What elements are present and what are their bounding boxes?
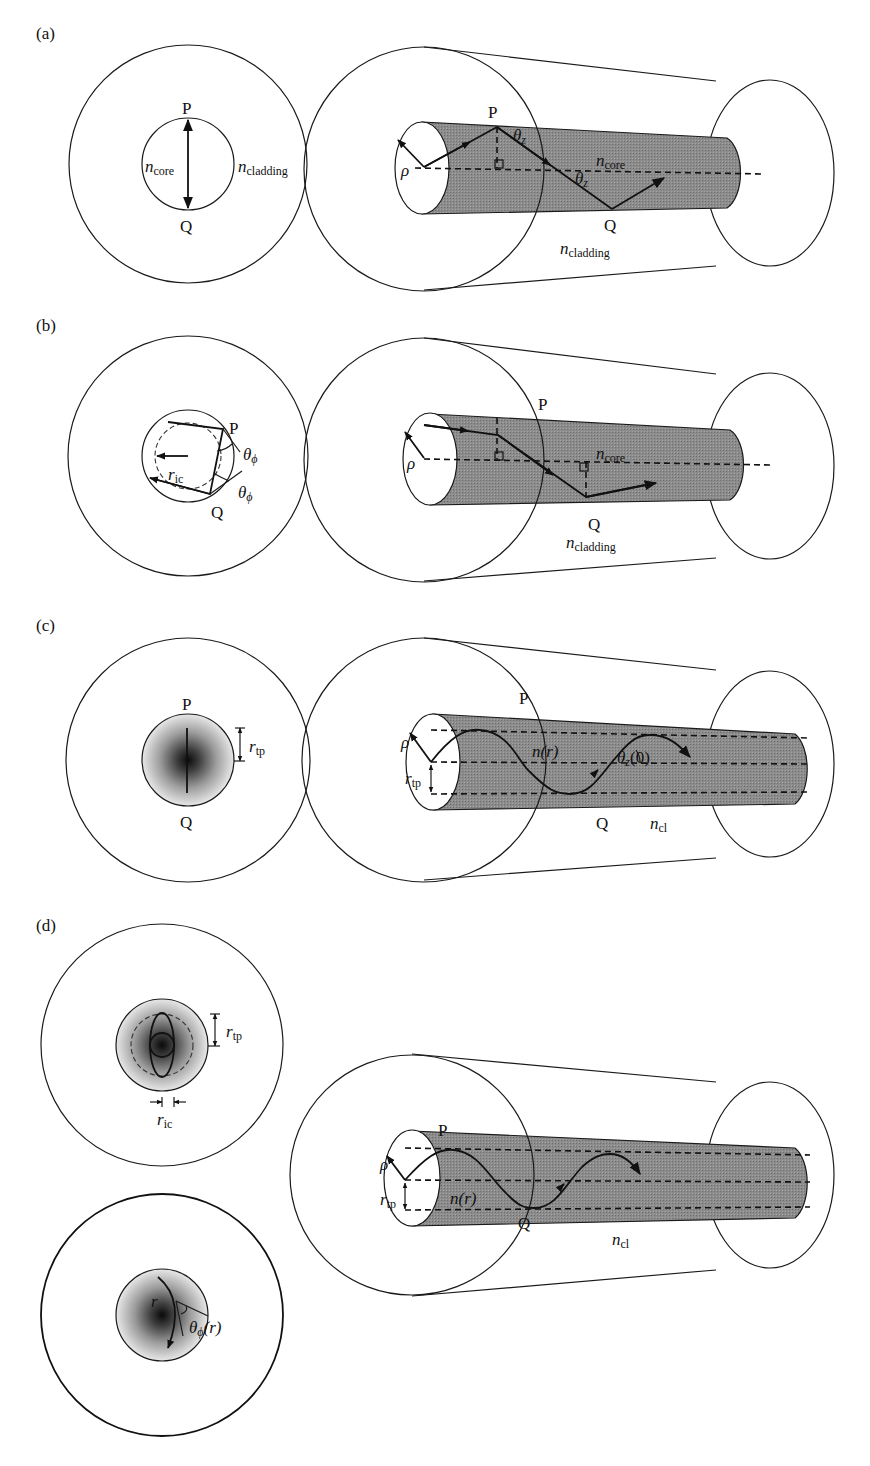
rho-label: ρ	[406, 454, 415, 473]
panel-a: (a) P Q ncore ncladding ρ P	[36, 24, 834, 291]
point-q-label: Q	[180, 813, 192, 832]
point-q-label: Q	[518, 1214, 530, 1233]
angle-arc	[215, 474, 229, 481]
cladding-bottom-edge	[424, 858, 716, 880]
point-q-label: Q	[596, 814, 608, 833]
graded-core	[142, 714, 234, 806]
fiber-ray-diagram: (a) P Q ncore ncladding ρ P	[0, 0, 870, 1466]
point-p-label: P	[438, 1121, 447, 1140]
point-p-label: P	[488, 103, 497, 122]
cladding-top-edge	[424, 338, 716, 374]
cladding-index-label: ncladding	[560, 239, 610, 260]
point-p-label: P	[182, 99, 191, 118]
panel-label-c: (c)	[36, 616, 55, 635]
cross-section-b: P Q ric θϕ θϕ	[68, 336, 308, 576]
core-cylinder	[422, 122, 741, 214]
refractive-profile-label: n(r)	[532, 742, 559, 761]
cladding-top-edge	[424, 47, 716, 81]
core-end-face	[384, 1130, 440, 1226]
core-index-label: ncore	[145, 157, 174, 178]
cladding-bottom-edge	[424, 558, 716, 581]
panel-b: (b) P Q ric θϕ θϕ ρ	[36, 316, 834, 582]
point-p-label: P	[182, 695, 191, 714]
theta-phi-label: θϕ	[238, 483, 253, 504]
cladding-index-label: ncladding	[238, 157, 288, 178]
panel-label-b: (b)	[36, 316, 56, 335]
cladding-bottom-edge	[412, 1270, 716, 1296]
cladding-index-label: ncl	[612, 1230, 630, 1251]
core-cylinder	[412, 1131, 807, 1226]
point-p-label: P	[229, 419, 238, 438]
panel-label-a: (a)	[36, 24, 55, 43]
fiber-3d-d: P Q ρ rtp n(r) ncl	[290, 1054, 834, 1296]
panel-d: (d) rtp ric r θϕ(r)	[36, 916, 834, 1436]
rho-label: ρ	[400, 161, 409, 180]
fiber-3d-c: P Q ρ rtp n(r) θz(0) ncl	[302, 638, 834, 882]
ric-label: ric	[157, 1110, 172, 1131]
theta-z0-label: θz(0)	[617, 748, 650, 769]
point-q-label: Q	[604, 216, 616, 235]
theta-phi-label: θϕ	[243, 445, 258, 466]
skew-ray-path	[150, 422, 223, 494]
point-p-label: P	[538, 395, 547, 414]
cladding-top-edge	[424, 638, 716, 670]
cross-section-d-top: rtp ric	[41, 924, 283, 1166]
graded-core	[116, 1269, 208, 1361]
cladding-index-label: ncl	[650, 814, 668, 835]
rtp-label: rtp	[226, 1022, 242, 1043]
cladding-index-label: ncladding	[566, 533, 616, 554]
fiber-3d-a: ρ P Q θz θz ncore ncladding	[304, 47, 834, 291]
point-q-label: Q	[588, 515, 600, 534]
ric-label: ric	[168, 465, 183, 486]
cladding-top-edge	[412, 1054, 716, 1082]
cross-section-d-bottom: r θϕ(r)	[41, 1194, 283, 1436]
rho-label: ρ	[400, 733, 409, 752]
panel-label-d: (d)	[36, 916, 56, 935]
rho-label: ρ	[379, 1155, 388, 1174]
cladding-bottom-edge	[424, 266, 716, 290]
point-q-label: Q	[180, 217, 192, 236]
rtp-label: rtp	[249, 737, 265, 758]
cross-section-a: P Q ncore ncladding	[69, 45, 307, 283]
theta-phi-r-label: θϕ(r)	[189, 1318, 222, 1339]
panel-c: (c) P Q rtp P	[36, 616, 834, 882]
cross-section-c: P Q rtp	[66, 638, 310, 882]
fiber-3d-b: ρ P Q ncore ncladding	[304, 338, 834, 582]
refractive-profile-label: n(r)	[450, 1189, 477, 1208]
point-q-label: Q	[211, 503, 223, 522]
r-label: r	[151, 1292, 158, 1311]
point-p-label: P	[519, 689, 528, 708]
